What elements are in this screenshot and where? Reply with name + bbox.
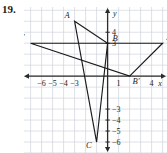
point-label-B: B [113,33,118,43]
y-tick-label: −5 [112,127,121,136]
y-axis-arrow-down [105,147,110,152]
point-label-C: C [86,140,92,150]
x-tick-label: 1 [117,79,121,88]
point-label-Bprime: B′ [133,76,140,86]
point-label-Cprime: C′ [24,32,25,42]
x-tick-label: −3 [70,79,79,88]
coordinate-plane-svg: −6−5−4−31443−3−4−5−6yx ABCA′B′C′ [24,7,167,153]
triangle-ABC [75,21,108,142]
x-tick-label: 4 [150,79,154,88]
x-tick-label: −4 [59,79,68,88]
x-axis-arrow-left [24,74,29,79]
exercise-figure: 19. −6−5−4−31443−3−4−5−6yx ABCA′B′C′ [0,0,167,153]
y-tick-label: −4 [112,116,121,125]
point-label-A: A [63,10,70,20]
x-tick-label: −5 [48,79,57,88]
y-axis-label: y [112,9,117,18]
y-tick-label: −6 [112,138,121,147]
coordinate-plane: −6−5−4−31443−3−4−5−6yx ABCA′B′C′ [24,7,167,153]
point-label-Aprime: A′ [166,32,167,42]
y-tick-label: −3 [112,105,121,114]
x-axis-label: x [157,79,162,88]
x-tick-label: −6 [37,79,46,88]
tick-labels: −6−5−4−31443−3−4−5−6yx [37,9,162,147]
exercise-number: 19. [2,4,16,15]
